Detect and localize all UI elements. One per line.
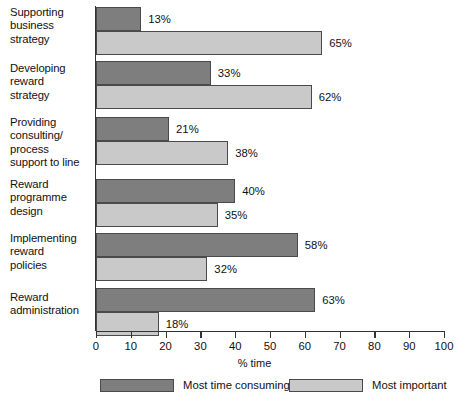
x-axis-tick	[409, 331, 410, 338]
x-axis-tick-label: 0	[93, 340, 99, 353]
x-axis-tick-label: 80	[368, 340, 381, 353]
category-label: Reward administration	[10, 291, 94, 318]
x-axis-tick	[305, 331, 306, 338]
legend-item-most-important: Most important	[289, 379, 447, 392]
x-axis-tick	[235, 331, 236, 338]
chart-legend: Most time consuming Most important	[0, 379, 465, 399]
category-label-line: reward	[10, 245, 44, 257]
category-label-line: Developing	[10, 62, 66, 74]
category-label-line: strategy	[10, 89, 49, 101]
category-label-line: policies	[10, 259, 47, 271]
bar-most-time-consuming	[96, 288, 315, 312]
x-axis-tick	[444, 331, 445, 338]
legend-label: Most time consuming	[183, 379, 290, 392]
x-axis-tick-label: 60	[299, 340, 312, 353]
bar-value-label: 13%	[148, 13, 171, 25]
bar-value-label: 35%	[225, 209, 248, 221]
category-label-line: administration	[10, 304, 79, 316]
x-axis-tick	[340, 331, 341, 338]
x-axis-tick-label: 70	[333, 340, 346, 353]
category-label: Providing consulting/ process support to…	[10, 116, 94, 170]
bar-most-important	[96, 141, 228, 165]
category-label-line: business	[10, 19, 54, 31]
bar-value-label: 40%	[242, 185, 265, 197]
category-label-line: Reward	[10, 291, 48, 303]
bar-most-time-consuming	[96, 61, 211, 85]
legend-label: Most important	[372, 379, 447, 392]
category-label-line: programme	[10, 191, 67, 203]
bar-value-label: 32%	[214, 263, 237, 275]
bar-most-important	[96, 31, 322, 55]
bar-value-label: 33%	[218, 67, 241, 79]
bar-value-label: 62%	[319, 91, 342, 103]
x-axis-title: % time	[0, 357, 465, 369]
category-label: Implementing reward policies	[10, 232, 94, 272]
bar-chart: Supporting business strategy Developing …	[0, 0, 465, 405]
category-label: Supporting business strategy	[10, 6, 94, 46]
x-axis-tick	[270, 331, 271, 338]
plot-area: 13%65%33%62%21%38%40%35%58%32%63%18%	[96, 0, 444, 330]
x-axis-tick	[200, 331, 201, 338]
bar-value-label: 38%	[235, 147, 258, 159]
bar-most-important	[96, 85, 312, 109]
bar-most-time-consuming	[96, 179, 235, 203]
category-label-line: Providing	[10, 116, 56, 128]
x-axis-tick-label: 90	[403, 340, 416, 353]
legend-item-most-time-consuming: Most time consuming	[100, 379, 290, 392]
x-axis-tick-label: 20	[159, 340, 172, 353]
category-label-line: reward	[10, 75, 44, 87]
bar-most-important	[96, 257, 207, 281]
legend-swatch-icon	[100, 379, 174, 392]
category-axis-labels: Supporting business strategy Developing …	[0, 0, 92, 340]
x-axis-tick-label: 50	[264, 340, 277, 353]
bar-most-time-consuming	[96, 7, 141, 31]
bar-value-label: 63%	[322, 294, 345, 306]
category-label-line: Reward	[10, 178, 48, 190]
category-label-line: strategy	[10, 33, 49, 45]
x-axis-tick-label: 30	[194, 340, 207, 353]
bar-value-label: 18%	[166, 318, 189, 330]
bar-most-time-consuming	[96, 117, 169, 141]
category-label-line: consulting/	[10, 129, 63, 141]
category-label-line: process	[10, 143, 49, 155]
x-axis-tick-label: 10	[125, 340, 138, 353]
category-label-line: support to line	[10, 156, 79, 168]
category-label-line: design	[10, 205, 43, 217]
bar-most-important	[96, 312, 159, 336]
bar-most-time-consuming	[96, 233, 298, 257]
category-label-line: Supporting	[10, 6, 64, 18]
x-axis-tick	[96, 331, 97, 338]
category-label: Developing reward strategy	[10, 62, 94, 102]
bar-value-label: 58%	[305, 239, 328, 251]
x-axis-tick	[131, 331, 132, 338]
x-axis-tick	[374, 331, 375, 338]
legend-swatch-icon	[289, 379, 363, 392]
x-axis-tick-label: 100	[435, 340, 454, 353]
x-axis-tick	[166, 331, 167, 338]
bar-value-label: 21%	[176, 123, 199, 135]
bar-value-label: 65%	[329, 37, 352, 49]
bar-most-important	[96, 203, 218, 227]
category-label-line: Implementing	[10, 232, 77, 244]
category-label: Reward programme design	[10, 178, 94, 218]
x-axis-tick-label: 40	[229, 340, 242, 353]
x-axis-title-text: % time	[238, 357, 272, 369]
